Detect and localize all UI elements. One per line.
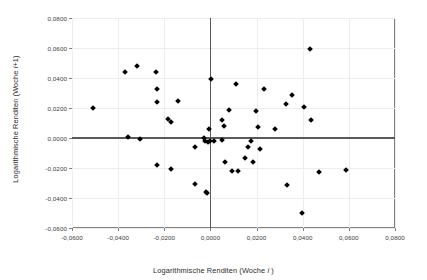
gridline-horizontal xyxy=(72,198,395,199)
y-tick-mark xyxy=(69,198,72,199)
gridline-vertical xyxy=(118,18,119,228)
x-tick-mark xyxy=(395,228,396,231)
x-tick-label: 0,0800 xyxy=(385,234,405,241)
x-tick-mark xyxy=(72,228,73,231)
y-axis-title-prefix: Logarithmische Renditen (Woche xyxy=(11,68,20,182)
x-tick-mark xyxy=(303,228,304,231)
x-tick-label: 0,0600 xyxy=(339,234,359,241)
x-axis-title: Logarithmische Renditen (Woche i ) xyxy=(0,266,427,275)
gridline-vertical xyxy=(164,18,165,228)
y-tick-label: -0,0200 xyxy=(45,165,67,172)
plot-area xyxy=(72,18,395,228)
x-axis-title-prefix: Logarithmische Renditen (Woche xyxy=(153,266,267,275)
y-tick-mark xyxy=(69,18,72,19)
y-tick-label: 0,0000 xyxy=(47,135,67,142)
x-tick-label: -0,0200 xyxy=(153,234,175,241)
gridline-vertical xyxy=(72,18,73,228)
gridline-vertical xyxy=(349,18,350,228)
x-tick-mark xyxy=(349,228,350,231)
gridline-horizontal xyxy=(72,48,395,49)
zero-line-vertical xyxy=(210,18,212,228)
y-tick-label: 0,0800 xyxy=(47,15,67,22)
x-tick-mark xyxy=(118,228,119,231)
gridline-vertical xyxy=(303,18,304,228)
x-tick-mark xyxy=(257,228,258,231)
x-tick-label: 0,0000 xyxy=(201,234,221,241)
x-axis-title-suffix: ) xyxy=(269,266,274,275)
y-tick-label: 0,0200 xyxy=(47,105,67,112)
x-tick-mark xyxy=(164,228,165,231)
y-tick-label: 0,0400 xyxy=(47,75,67,82)
zero-line-horizontal xyxy=(72,137,395,139)
gridline-horizontal xyxy=(72,228,395,229)
gridline-horizontal xyxy=(72,108,395,109)
y-tick-mark xyxy=(69,48,72,49)
y-axis-title-suffix: +1) xyxy=(11,55,20,66)
y-tick-label: -0,0600 xyxy=(45,225,67,232)
gridline-vertical xyxy=(395,18,396,228)
y-tick-label: -0,0400 xyxy=(45,195,67,202)
x-tick-label: -0,0400 xyxy=(107,234,129,241)
y-tick-mark xyxy=(69,108,72,109)
y-tick-label: 0,0600 xyxy=(47,45,67,52)
y-tick-mark xyxy=(69,78,72,79)
gridline-horizontal xyxy=(72,78,395,79)
y-tick-mark xyxy=(69,228,72,229)
x-tick-label: 0,0400 xyxy=(293,234,313,241)
x-tick-label: -0,0600 xyxy=(61,234,83,241)
scatter-chart: -0,0600-0,0400-0,02000,00000,02000,04000… xyxy=(0,0,427,280)
x-tick-mark xyxy=(210,228,211,231)
y-axis-title: Logarithmische Renditen (Woche i+1) xyxy=(11,14,20,224)
gridline-horizontal xyxy=(72,18,395,19)
x-tick-label: 0,0200 xyxy=(247,234,267,241)
y-tick-mark xyxy=(69,168,72,169)
